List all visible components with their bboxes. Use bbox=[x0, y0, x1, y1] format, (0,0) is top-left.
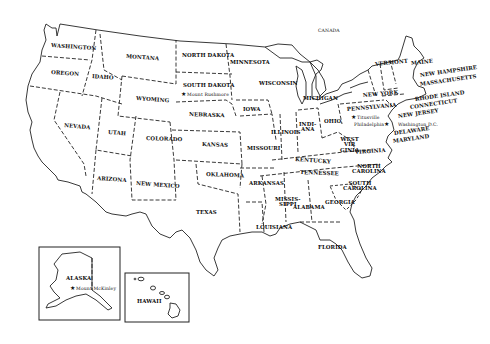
state-label-florida: FLORIDA bbox=[318, 245, 347, 250]
star-icon: ★ bbox=[384, 120, 389, 127]
state-label-utah: UTAH bbox=[108, 130, 126, 137]
landmark-label: Philadelphia bbox=[354, 122, 384, 127]
landmark-label: Washington D.C. bbox=[398, 122, 438, 127]
alaska-inset-frame bbox=[39, 247, 120, 320]
star-icon: ★ bbox=[351, 113, 356, 120]
state-label-north-dakota: NORTH DAKOTA bbox=[182, 53, 234, 58]
landmark-washington-dc: Washington D.C. bbox=[398, 123, 438, 128]
state-label-indiana: INDI-ANA bbox=[299, 122, 316, 133]
landmark-label: Mount Rushmore bbox=[187, 92, 229, 97]
star-icon: ★ bbox=[181, 90, 186, 97]
state-label-alabama: ALABAMA bbox=[293, 205, 325, 210]
landmark-label: Mount McKinley bbox=[76, 286, 116, 291]
state-label-georgia: GEORGIA bbox=[325, 200, 355, 205]
state-label-north-carolina: NORTHCAROLINA bbox=[352, 164, 386, 175]
state-label-missouri: MISSOURI bbox=[247, 146, 280, 151]
landmark-titusville: ★Titusville bbox=[351, 114, 380, 121]
state-label-michigan: MICHIGAN bbox=[303, 96, 338, 101]
state-label-texas: TEXAS bbox=[196, 210, 217, 215]
landmark-philadelphia: Philadelphia★ bbox=[354, 121, 390, 128]
state-label-alaska: ALASKA bbox=[66, 276, 91, 281]
state-label-south-carolina: SOUTHCAROLINA bbox=[343, 181, 377, 192]
state-label-arkansas: ARKANSAS bbox=[249, 181, 284, 186]
state-label-wisconsin: WISCONSIN bbox=[259, 81, 298, 86]
lake-ontario bbox=[350, 82, 368, 88]
star-icon: ★ bbox=[70, 284, 75, 291]
state-label-hawaii: HAWAII bbox=[137, 299, 162, 304]
state-label-kansas: KANSAS bbox=[202, 142, 228, 148]
landmark-label: Titusville bbox=[357, 115, 379, 120]
country-label-canada: CANADA bbox=[318, 29, 340, 34]
state-label-ohio: OHIO bbox=[324, 119, 341, 124]
state-label-illinois: ILLINOIS bbox=[271, 130, 300, 135]
lake-superior bbox=[265, 47, 310, 62]
state-label-iowa: IOWA bbox=[243, 107, 261, 112]
state-label-south-dakota: SOUTH DAKOTA bbox=[183, 83, 234, 88]
state-label-louisiana: LOUISIANA bbox=[256, 225, 292, 230]
us-map bbox=[0, 0, 490, 344]
state-label-minnesota: MINNESOTA bbox=[230, 60, 270, 65]
landmark-mount-mckinley: ★Mount McKinley bbox=[70, 285, 116, 292]
landmark-mount-rushmore: ★Mount Rushmore bbox=[181, 91, 229, 98]
